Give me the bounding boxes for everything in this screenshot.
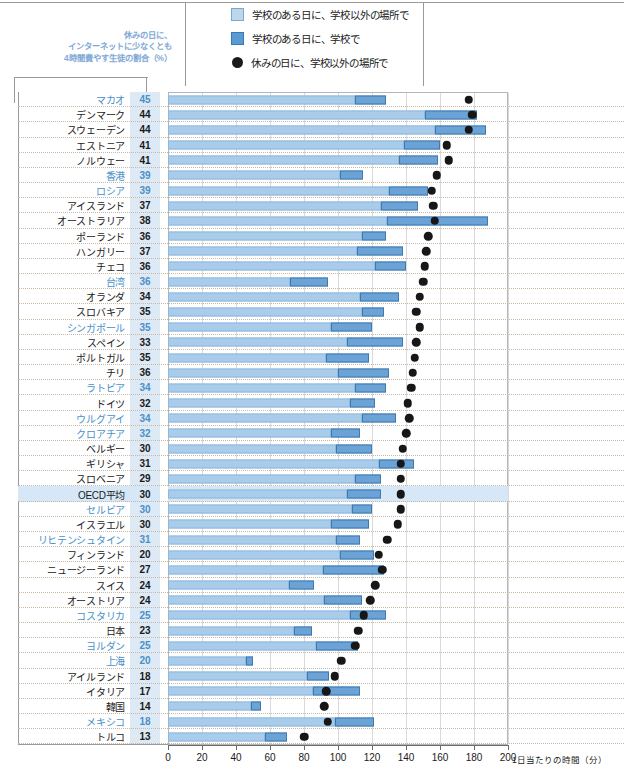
holiday-outside-marker[interactable] bbox=[398, 444, 407, 453]
stacked-bar[interactable] bbox=[168, 338, 403, 347]
table-row[interactable]: 台湾36 bbox=[0, 274, 624, 289]
holiday-outside-marker[interactable] bbox=[324, 717, 333, 726]
holiday-outside-marker[interactable] bbox=[359, 611, 368, 620]
table-row[interactable]: スペイン33 bbox=[0, 335, 624, 350]
stacked-bar[interactable] bbox=[168, 672, 329, 681]
holiday-outside-marker[interactable] bbox=[322, 687, 331, 696]
stacked-bar[interactable] bbox=[168, 171, 363, 180]
holiday-outside-marker[interactable] bbox=[443, 141, 452, 150]
stacked-bar[interactable] bbox=[168, 414, 396, 423]
stacked-bar[interactable] bbox=[168, 459, 414, 468]
stacked-bar[interactable] bbox=[168, 95, 386, 104]
table-row[interactable]: フィンランド20 bbox=[0, 547, 624, 562]
table-row[interactable]: オーストリア24 bbox=[0, 593, 624, 608]
holiday-outside-marker[interactable] bbox=[431, 217, 440, 226]
holiday-outside-marker[interactable] bbox=[351, 642, 360, 651]
holiday-outside-marker[interactable] bbox=[424, 232, 433, 241]
stacked-bar[interactable] bbox=[168, 520, 369, 529]
stacked-bar[interactable] bbox=[168, 656, 253, 665]
holiday-outside-marker[interactable] bbox=[465, 126, 474, 135]
table-row[interactable]: 上海20 bbox=[0, 653, 624, 668]
holiday-outside-marker[interactable] bbox=[403, 399, 412, 408]
stacked-bar[interactable] bbox=[168, 232, 386, 241]
stacked-bar[interactable] bbox=[168, 399, 375, 408]
table-row[interactable]: オランダ34 bbox=[0, 289, 624, 304]
holiday-outside-marker[interactable] bbox=[371, 581, 380, 590]
table-row[interactable]: シンガポール35 bbox=[0, 320, 624, 335]
table-row[interactable]: ベルギー30 bbox=[0, 441, 624, 456]
stacked-bar[interactable] bbox=[168, 611, 386, 620]
table-row[interactable]: ラトビア34 bbox=[0, 380, 624, 395]
holiday-outside-marker[interactable] bbox=[375, 550, 384, 559]
holiday-outside-marker[interactable] bbox=[405, 414, 414, 423]
holiday-outside-marker[interactable] bbox=[412, 338, 421, 347]
holiday-outside-marker[interactable] bbox=[422, 247, 431, 256]
table-row[interactable]: 香港39 bbox=[0, 168, 624, 183]
stacked-bar[interactable] bbox=[168, 156, 438, 165]
table-row[interactable]: チェコ36 bbox=[0, 259, 624, 274]
holiday-outside-marker[interactable] bbox=[415, 323, 424, 332]
table-row[interactable]: エストニア41 bbox=[0, 138, 624, 153]
holiday-outside-marker[interactable] bbox=[320, 702, 329, 711]
table-row[interactable]: トルコ13 bbox=[0, 729, 624, 744]
table-row[interactable]: ウルグアイ34 bbox=[0, 411, 624, 426]
holiday-outside-marker[interactable] bbox=[468, 111, 477, 120]
table-row[interactable]: イタリア17 bbox=[0, 684, 624, 699]
table-row[interactable]: ニュージーランド27 bbox=[0, 562, 624, 577]
holiday-outside-marker[interactable] bbox=[415, 293, 424, 302]
table-row[interactable]: スロバキア35 bbox=[0, 304, 624, 319]
table-row[interactable]: スウェーデン44 bbox=[0, 122, 624, 137]
stacked-bar[interactable] bbox=[168, 490, 381, 499]
table-row[interactable]: チリ36 bbox=[0, 365, 624, 380]
stacked-bar[interactable] bbox=[168, 626, 312, 635]
holiday-outside-marker[interactable] bbox=[397, 505, 406, 514]
stacked-bar[interactable] bbox=[168, 535, 360, 544]
holiday-outside-marker[interactable] bbox=[300, 733, 309, 742]
stacked-bar[interactable] bbox=[168, 141, 440, 150]
table-row[interactable]: ロシア39 bbox=[0, 183, 624, 198]
stacked-bar[interactable] bbox=[168, 292, 399, 301]
table-row[interactable]: ポルトガル35 bbox=[0, 350, 624, 365]
stacked-bar[interactable] bbox=[168, 429, 360, 438]
holiday-outside-marker[interactable] bbox=[383, 535, 392, 544]
holiday-outside-marker[interactable] bbox=[410, 353, 419, 362]
holiday-outside-marker[interactable] bbox=[402, 429, 411, 438]
holiday-outside-marker[interactable] bbox=[412, 308, 421, 317]
stacked-bar[interactable] bbox=[168, 368, 389, 377]
table-row[interactable]: スロベニア29 bbox=[0, 471, 624, 486]
stacked-bar[interactable] bbox=[168, 277, 328, 286]
stacked-bar[interactable] bbox=[168, 125, 486, 134]
holiday-outside-marker[interactable] bbox=[354, 626, 363, 635]
table-row[interactable]: リヒテンシュタイン31 bbox=[0, 532, 624, 547]
stacked-bar[interactable] bbox=[168, 444, 372, 453]
table-row[interactable]: ノルウェー41 bbox=[0, 153, 624, 168]
stacked-bar[interactable] bbox=[168, 505, 372, 514]
table-row[interactable]: メキシコ18 bbox=[0, 714, 624, 729]
stacked-bar[interactable] bbox=[168, 474, 381, 483]
holiday-outside-marker[interactable] bbox=[432, 171, 441, 180]
holiday-outside-marker[interactable] bbox=[393, 520, 402, 529]
holiday-outside-marker[interactable] bbox=[337, 657, 346, 666]
stacked-bar[interactable] bbox=[168, 307, 384, 316]
stacked-bar[interactable] bbox=[168, 247, 403, 256]
stacked-bar[interactable] bbox=[168, 262, 406, 271]
stacked-bar[interactable] bbox=[168, 641, 358, 650]
table-row[interactable]: ヨルダン25 bbox=[0, 638, 624, 653]
stacked-bar[interactable] bbox=[168, 596, 362, 605]
stacked-bar[interactable] bbox=[168, 717, 374, 726]
table-row[interactable]: スイス24 bbox=[0, 578, 624, 593]
table-row[interactable]: ハンガリー37 bbox=[0, 244, 624, 259]
table-row[interactable]: イスラエル30 bbox=[0, 517, 624, 532]
stacked-bar[interactable] bbox=[168, 702, 261, 711]
stacked-bar[interactable] bbox=[168, 565, 384, 574]
holiday-outside-marker[interactable] bbox=[397, 475, 406, 484]
table-row[interactable]: クロアチア32 bbox=[0, 426, 624, 441]
holiday-outside-marker[interactable] bbox=[429, 202, 438, 211]
stacked-bar[interactable] bbox=[168, 353, 369, 362]
stacked-bar[interactable] bbox=[168, 383, 386, 392]
stacked-bar[interactable] bbox=[168, 216, 488, 225]
table-row[interactable]: 韓国14 bbox=[0, 699, 624, 714]
table-row[interactable]: ポーランド36 bbox=[0, 229, 624, 244]
table-row[interactable]: オーストラリア38 bbox=[0, 213, 624, 228]
stacked-bar[interactable] bbox=[168, 323, 372, 332]
